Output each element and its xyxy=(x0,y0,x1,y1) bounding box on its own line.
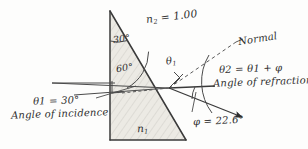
label-theta2-equation: θ2 = θ1 + φ xyxy=(219,62,283,76)
label-n2-value: 1.00 xyxy=(173,7,198,22)
label-theta1-at-surface: θ1 xyxy=(165,54,177,67)
theta1-leader-line xyxy=(169,74,183,88)
surface-tangent-line xyxy=(169,86,215,88)
refraction-diagram: n2 = 1.00 n1 30° 60° θ1 Normal θ2 = θ1 +… xyxy=(0,0,308,149)
label-n1: n1 xyxy=(137,122,149,137)
label-n2-equals: = xyxy=(160,10,170,23)
label-n2-subscript: 2 xyxy=(153,18,158,26)
label-theta1-at-surface-subscript: 1 xyxy=(172,59,177,66)
label-n1-subscript: 1 xyxy=(144,128,149,136)
label-theta1-value: θ1 = 30° xyxy=(33,94,80,107)
